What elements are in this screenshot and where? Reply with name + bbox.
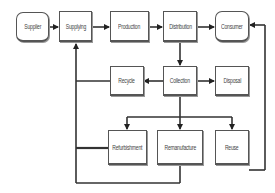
node-remanufacture: Remanufacture xyxy=(157,130,203,165)
node-collection: Collection xyxy=(163,66,197,96)
node-label: Collection xyxy=(170,77,190,84)
node-label: Refurbishment xyxy=(113,144,143,151)
supply-chain-diagram: Supplier Supplying Production Distributi… xyxy=(0,0,275,193)
node-supplier: Supplier xyxy=(16,12,49,42)
node-recycle: Recycle xyxy=(110,66,144,96)
node-disposal: Disposal xyxy=(215,66,249,96)
node-label: Remanufacture xyxy=(164,144,196,151)
node-label: Distribution xyxy=(169,23,192,30)
node-refurbishment: Refurbishment xyxy=(108,130,147,165)
node-supplying: Supplying xyxy=(59,11,92,42)
node-label: Reuse xyxy=(225,144,238,151)
node-label: Disposal xyxy=(223,77,241,84)
node-label: Supplier xyxy=(24,23,41,30)
node-label: Production xyxy=(119,23,141,30)
node-label: Supplying xyxy=(65,23,85,30)
node-distribution: Distribution xyxy=(163,11,197,42)
node-label: Recycle xyxy=(119,77,135,84)
node-reuse: Reuse xyxy=(215,130,249,165)
node-consumer: Consumer xyxy=(215,11,249,42)
node-production: Production xyxy=(110,11,149,42)
node-label: Consumer xyxy=(221,23,243,30)
